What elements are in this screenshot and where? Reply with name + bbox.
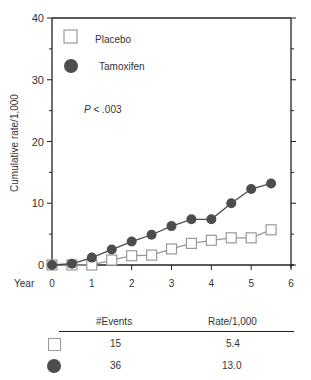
x-tick-label: 6 [288, 278, 294, 289]
tamoxifen-point-icon [147, 230, 157, 240]
legend-placebo-marker-icon [64, 30, 77, 43]
table-tamoxifen-rate: 13.0 [222, 360, 241, 371]
table-tamoxifen-marker-icon [47, 359, 61, 373]
tamoxifen-point-icon [47, 260, 57, 270]
x-tick-label: 3 [169, 278, 175, 289]
legend-tamoxifen-marker-icon [64, 59, 78, 73]
placebo-point-icon [107, 255, 117, 265]
table-placebo-events: 15 [110, 338, 121, 349]
x-tick-label: 0 [49, 278, 55, 289]
placebo-point-icon [266, 225, 276, 235]
x-tick-label: 1 [89, 278, 95, 289]
x-tick-label: 4 [209, 278, 215, 289]
placebo-point-icon [246, 233, 256, 243]
tamoxifen-point-icon [127, 237, 137, 247]
table-placebo-marker-icon [48, 338, 61, 351]
p-symbol: P [84, 104, 91, 115]
tamoxifen-point-icon [226, 198, 236, 208]
legend-tamoxifen-label: Tamoxifen [99, 61, 145, 72]
x-tick-label: 5 [248, 278, 254, 289]
y-tick-label: 20 [32, 136, 44, 148]
tamoxifen-point-icon [266, 178, 276, 188]
placebo-point-icon [186, 238, 196, 248]
table-placebo-rate: 5.4 [226, 338, 240, 349]
y-tick-label: 30 [32, 74, 44, 86]
tamoxifen-point-icon [87, 253, 97, 263]
p-value: < .003 [91, 104, 122, 115]
table-header-rule [59, 331, 294, 332]
x-axis-label: Year [14, 278, 34, 289]
chart: 0102030400123456 [0, 0, 311, 300]
x-tick-label: 2 [129, 278, 135, 289]
tamoxifen-point-icon [186, 214, 196, 224]
tamoxifen-point-icon [206, 214, 216, 224]
tamoxifen-point-icon [67, 259, 77, 269]
placebo-point-icon [147, 250, 157, 260]
legend-placebo-label: Placebo [95, 34, 131, 45]
placebo-point-icon [127, 251, 137, 261]
y-axis-label: Cumulative rate/1,000 [9, 94, 20, 192]
table-tamoxifen-events: 36 [110, 360, 121, 371]
placebo-point-icon [226, 233, 236, 243]
y-tick-label: 0 [38, 259, 44, 271]
placebo-point-icon [206, 235, 216, 245]
p-value-annotation: P < .003 [84, 104, 122, 115]
series-line-tamoxifen [52, 183, 271, 265]
placebo-point-icon [167, 244, 177, 254]
table-header-events: #Events [96, 316, 132, 327]
y-tick-label: 10 [32, 197, 44, 209]
tamoxifen-point-icon [107, 245, 117, 255]
y-tick-label: 40 [32, 12, 44, 24]
tamoxifen-point-icon [246, 184, 256, 194]
tamoxifen-point-icon [167, 221, 177, 231]
table-header-rate: Rate/1,000 [208, 316, 257, 327]
